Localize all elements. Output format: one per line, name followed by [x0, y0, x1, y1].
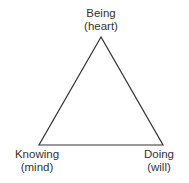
vertex-label-knowing: Knowing (mind) [2, 148, 72, 174]
vertex-title: Being [66, 7, 136, 20]
vertex-subtitle: (will) [124, 161, 189, 174]
vertex-subtitle: (heart) [66, 20, 136, 33]
vertex-title: Doing [124, 148, 189, 161]
vertex-title: Knowing [2, 148, 72, 161]
triangle-shape [39, 37, 163, 145]
vertex-label-doing: Doing (will) [124, 148, 189, 174]
vertex-label-being: Being (heart) [66, 7, 136, 33]
vertex-subtitle: (mind) [2, 161, 72, 174]
